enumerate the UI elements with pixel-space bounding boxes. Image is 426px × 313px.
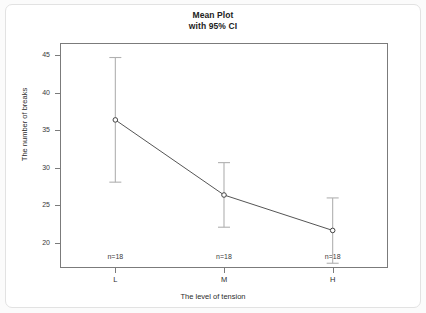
y-axis-tick-label: 25 [28, 201, 50, 208]
y-axis-label: The number of breaks [20, 55, 29, 195]
x-axis-tick-label: M [209, 275, 239, 284]
x-axis-label: The level of tension [0, 292, 426, 301]
chart-title: Mean Plot with 95% CI [0, 10, 426, 31]
plot-area [60, 43, 388, 268]
data-point-marker [222, 193, 227, 198]
x-axis-tick-label: H [318, 275, 348, 284]
plot-svg [61, 44, 387, 267]
x-axis-tick [115, 268, 116, 273]
x-axis-tick [333, 268, 334, 273]
x-axis-tick [224, 268, 225, 273]
data-point-marker [330, 228, 335, 233]
x-axis-tick-label: L [100, 275, 130, 284]
y-axis-tick-label: 20 [28, 239, 50, 246]
y-axis-tick-label: 30 [28, 164, 50, 171]
y-axis-tick-label: 40 [28, 89, 50, 96]
chart-title-line1: Mean Plot [0, 10, 426, 21]
y-axis-tick-label: 45 [28, 51, 50, 58]
chart-page: Mean Plot with 95% CI The number of brea… [0, 0, 426, 313]
chart-title-line2: with 95% CI [0, 21, 426, 32]
data-point-marker [113, 118, 118, 123]
y-axis-tick-label: 35 [28, 126, 50, 133]
